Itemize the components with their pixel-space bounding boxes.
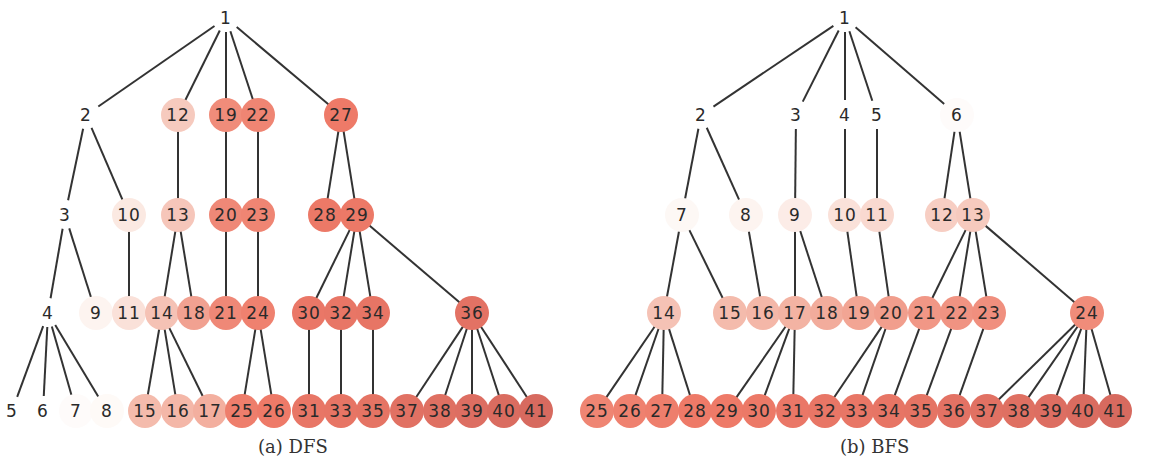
tree-traversal-figure: 1212192227310132023282949111418212430323… [0, 0, 1166, 471]
tree-node: 10 [828, 198, 862, 232]
tree-node: 12 [925, 198, 959, 232]
tree-node: 8 [729, 198, 763, 232]
tree-node: 32 [808, 394, 842, 428]
node-label: 40 [1071, 401, 1095, 421]
node-label: 11 [865, 205, 889, 225]
node-label: 18 [815, 303, 839, 323]
tree-node: 1 [220, 8, 232, 28]
tree-node: 25 [580, 394, 614, 428]
tree-node: 31 [292, 394, 326, 428]
tree-node: 13 [161, 198, 195, 232]
tree-node: 38 [1002, 394, 1036, 428]
node-label: 3 [59, 205, 71, 225]
tree-edge [1091, 326, 1111, 396]
tree-node: 36 [937, 394, 971, 428]
node-label: 20 [214, 205, 238, 225]
tree-edge [833, 325, 883, 399]
tree-edge [605, 325, 656, 399]
tree-edge [69, 228, 91, 298]
tree-node: 4 [839, 105, 851, 125]
tree-node: 16 [161, 394, 195, 428]
tree-node: 10 [112, 198, 146, 232]
tree-edge [803, 30, 839, 101]
tree-edge [343, 129, 354, 200]
tree-node: 17 [778, 296, 812, 330]
tree-node: 15 [713, 296, 747, 330]
node-label: 13 [166, 205, 190, 225]
tree-edge [17, 326, 43, 397]
tree-node: 12 [161, 98, 195, 132]
node-label: 37 [975, 401, 999, 421]
node-label: 22 [246, 105, 270, 125]
tree-edge [368, 224, 461, 303]
tree-node: 33 [840, 394, 874, 428]
tree-edge [164, 229, 175, 298]
node-label: 8 [740, 205, 752, 225]
node-label: 25 [230, 401, 254, 421]
tree-edge [685, 129, 699, 201]
node-label: 15 [133, 401, 157, 421]
tree-node: 39 [1034, 394, 1068, 428]
node-label: 19 [214, 105, 238, 125]
tree-node: 22 [241, 98, 275, 132]
tree-node: 11 [860, 198, 894, 232]
node-label: 36 [460, 303, 484, 323]
bfs-caption: (b) BFS [840, 436, 909, 457]
bfs-tree-panel: 1234567891011121314151617181920212223242… [580, 8, 1132, 428]
tree-edge [1056, 326, 1082, 397]
node-label: 26 [618, 401, 642, 421]
node-label: 31 [297, 401, 321, 421]
node-label: 36 [942, 401, 966, 421]
node-label: 38 [428, 401, 452, 421]
node-label: 24 [1075, 303, 1099, 323]
node-label: 2 [695, 105, 707, 125]
node-label: 32 [329, 303, 353, 323]
tree-node: 29 [710, 394, 744, 428]
node-label: 39 [460, 401, 484, 421]
tree-edge [92, 128, 124, 201]
tree-edge [748, 229, 760, 298]
node-label: 30 [747, 401, 771, 421]
tree-node: 33 [324, 394, 358, 428]
node-label: 30 [297, 303, 321, 323]
tree-node: 25 [225, 394, 259, 428]
tree-node: 9 [79, 296, 113, 330]
tree-node: 37 [390, 394, 424, 428]
tree-node: 14 [145, 296, 179, 330]
tree-edge [359, 229, 370, 298]
node-label: 27 [329, 105, 353, 125]
node-label: 15 [718, 303, 742, 323]
tree-edge [713, 26, 833, 107]
tree-edge [51, 229, 63, 298]
node-label: 6 [951, 105, 963, 125]
node-label: 23 [246, 205, 270, 225]
tree-edge [260, 327, 271, 396]
tree-edge [148, 327, 160, 396]
node-label: 14 [652, 303, 676, 323]
tree-node: 39 [455, 394, 489, 428]
tree-node: 34 [872, 394, 906, 428]
tree-edge [180, 229, 191, 298]
tree-node: 13 [956, 198, 990, 232]
tree-node: 5 [871, 105, 883, 125]
node-label: 26 [262, 401, 286, 421]
tree-node: 27 [324, 98, 358, 132]
tree-edge [959, 129, 970, 200]
tree-edge [849, 31, 872, 100]
node-label: 40 [492, 401, 516, 421]
tree-node: 38 [423, 394, 457, 428]
tree-edge [230, 31, 253, 100]
node-label: 17 [198, 401, 222, 421]
node-label: 7 [70, 401, 82, 421]
tree-node: 41 [519, 394, 553, 428]
node-label: 7 [676, 205, 688, 225]
node-label: 41 [1103, 401, 1127, 421]
tree-node: 1 [839, 8, 851, 28]
tree-edge [847, 229, 857, 298]
tree-node: 18 [810, 296, 844, 330]
node-label: 21 [214, 303, 238, 323]
tree-edge [662, 327, 663, 396]
tree-edge [998, 323, 1077, 401]
node-label: 12 [166, 105, 190, 125]
tree-node: 5 [6, 401, 18, 421]
